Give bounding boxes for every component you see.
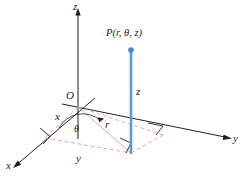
y-axis (62, 104, 232, 140)
projection-right-edge-dashed (131, 135, 163, 153)
z-axis (75, 8, 80, 139)
radius-label: r (105, 119, 109, 130)
right-angle-marker-foot-of-p (120, 138, 131, 153)
theta-arc-arrowhead (98, 117, 104, 122)
origin-label: O (66, 90, 74, 101)
right-angle-marker-x-foot (40, 128, 50, 144)
y-axis-arrowhead (223, 135, 232, 141)
projection-top-edge-dashed (78, 107, 163, 135)
x-leg-label: x (55, 111, 60, 122)
point-p-label: P(r, θ, z) (106, 28, 142, 39)
cylindrical-coordinates-figure: z x y O P(r, θ, z) r θ z x y (0, 0, 242, 176)
point-p-marker (128, 47, 134, 53)
theta-label: θ (74, 124, 79, 134)
theta-angle-arc (59, 114, 104, 128)
y-axis-label: y (233, 133, 238, 144)
y-leg-dashed (45, 138, 131, 153)
right-angle-marker-y-foot (148, 123, 163, 135)
y-leg-label: y (76, 153, 81, 164)
x-axis-label: x (6, 160, 11, 171)
z-axis-label: z (73, 1, 77, 12)
height-z-label: z (136, 86, 140, 97)
